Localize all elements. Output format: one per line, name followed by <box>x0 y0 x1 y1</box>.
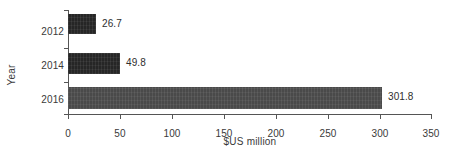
bar-2012-fill <box>68 14 96 34</box>
x-axis-tick-150 <box>224 114 225 119</box>
x-axis-tick-200 <box>276 114 277 119</box>
y-axis-tick-label-1: 2014 <box>28 60 64 71</box>
y-axis-tick-labels: 2012 2014 2016 <box>22 10 64 114</box>
x-axis-tick-0 <box>68 114 69 119</box>
y-axis-tick-0 <box>64 10 68 11</box>
x-axis-tick-300 <box>380 114 381 119</box>
y-axis-tick-label-2: 2016 <box>28 94 64 105</box>
y-axis-tick-2 <box>64 82 68 83</box>
bar-value-label-2016: 301.8 <box>388 91 414 102</box>
plot-area: 26.7 49.8 301.8 0 50 100 150 200 250 300… <box>68 10 432 114</box>
bar-2016 <box>68 87 382 109</box>
bar-2012 <box>68 14 96 34</box>
y-axis-title: Year <box>6 20 20 130</box>
bar-value-label-2014: 49.8 <box>126 57 146 68</box>
x-axis-tick-50 <box>120 114 121 119</box>
x-axis-tick-100 <box>172 114 173 119</box>
bar-chart: Year 2012 2014 2016 <box>0 0 457 159</box>
y-axis-tick-1 <box>64 48 68 49</box>
bar-2016-fill <box>68 87 382 109</box>
bar-2014 <box>68 53 120 74</box>
x-axis-title: $US million <box>68 136 432 147</box>
x-axis-tick-350 <box>431 114 432 119</box>
y-axis-tick-label-0: 2012 <box>28 26 64 37</box>
x-axis-line <box>68 114 432 115</box>
bar-value-label-2012: 26.7 <box>102 18 122 29</box>
x-axis-tick-250 <box>328 114 329 119</box>
bar-2014-fill <box>68 53 120 74</box>
